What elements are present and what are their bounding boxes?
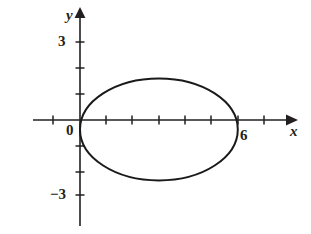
y-tick-label-neg3: −3 — [50, 187, 66, 202]
origin-label: 0 — [66, 123, 74, 138]
y-axis-arrow-icon — [75, 7, 86, 18]
y-tick-label-3: 3 — [58, 34, 66, 49]
y-axis-label: y — [66, 8, 73, 23]
y-axis-group — [75, 7, 86, 226]
ellipse-figure: y x 0 6 3 −3 — [0, 0, 311, 234]
ellipse-curve — [80, 79, 238, 181]
x-axis-label: x — [290, 124, 298, 139]
x-tick-label-6: 6 — [240, 128, 248, 143]
plot-canvas — [0, 0, 311, 234]
